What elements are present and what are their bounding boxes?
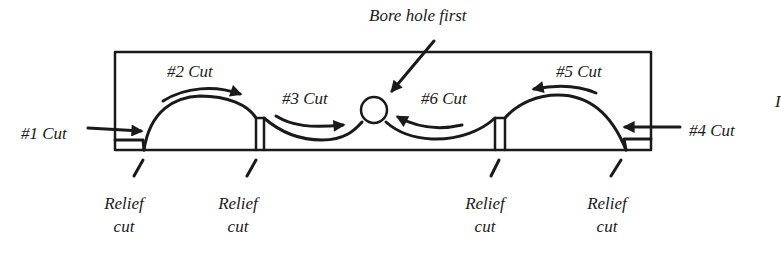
cut1-arrow (88, 128, 141, 131)
cut1-label: #1 Cut (21, 124, 67, 143)
relief-leader-1 (134, 160, 143, 176)
right-end-notch (624, 139, 651, 150)
relief-cut-label-4: Reliefcut (577, 192, 637, 238)
right-relief-slot (495, 118, 505, 150)
cut5-arrow (534, 86, 596, 93)
relief-leader-4 (611, 160, 621, 176)
left-arch-profile (144, 96, 256, 150)
left-wave-profile (264, 118, 362, 140)
cut3-arrow (276, 116, 343, 126)
relief-cut-label-3: Reliefcut (455, 192, 515, 238)
cut3-label: #3 Cut (282, 89, 328, 108)
bore-hole-label: Bore hole first (369, 6, 467, 25)
cut5-label: #5 Cut (556, 62, 602, 81)
cut6-label: #6 Cut (421, 89, 467, 108)
relief-leader-3 (491, 160, 499, 176)
relief-cut-label-1: Reliefcut (94, 192, 154, 238)
cut2-label: #2 Cut (167, 62, 213, 81)
left-end-notch (115, 140, 144, 150)
relief-leader-2 (247, 160, 256, 176)
cropped-edge-label: I (775, 92, 781, 111)
right-arch-profile (505, 95, 626, 150)
cut4-label: #4 Cut (689, 121, 735, 140)
bore-hole (361, 97, 387, 123)
cut6-arrow (398, 117, 462, 128)
bore-pointer-arrow (392, 41, 434, 91)
left-relief-slot (256, 118, 264, 150)
relief-cut-label-2: Reliefcut (208, 192, 268, 238)
